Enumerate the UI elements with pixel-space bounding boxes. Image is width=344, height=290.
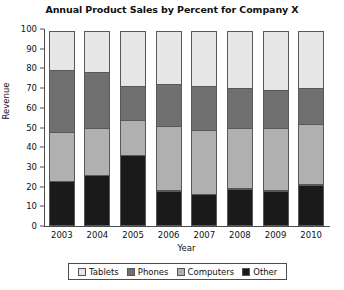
x-axis-tick-label: 2008 <box>227 230 253 240</box>
bar-segment-tablets[interactable] <box>227 31 253 88</box>
bar-segment-computers[interactable] <box>227 128 253 189</box>
bar-segment-other[interactable] <box>191 194 217 226</box>
x-axis-label: Year <box>44 243 329 253</box>
bar-segment-phones[interactable] <box>263 90 289 129</box>
legend-item[interactable]: Computers <box>177 267 235 277</box>
legend-item[interactable]: Tablets <box>78 267 119 277</box>
bar-group[interactable] <box>120 29 146 226</box>
bar-segment-phones[interactable] <box>49 70 75 133</box>
bar-segment-tablets[interactable] <box>84 31 110 72</box>
bar-segment-other[interactable] <box>263 191 289 226</box>
y-axis-tick-label: 70 <box>26 83 37 93</box>
bar-group[interactable] <box>156 29 182 226</box>
y-axis-tick-label: 0 <box>32 221 37 231</box>
bar-segment-phones[interactable] <box>227 88 253 129</box>
bar-series-container <box>44 29 329 226</box>
x-axis-tick-label: 2003 <box>49 230 75 240</box>
chart-legend: TabletsPhonesComputersOther <box>68 263 287 280</box>
bar-segment-computers[interactable] <box>120 120 146 155</box>
bar-segment-phones[interactable] <box>120 86 146 121</box>
bar-segment-tablets[interactable] <box>298 31 324 88</box>
legend-swatch-icon <box>177 268 185 276</box>
bar-group[interactable] <box>298 29 324 226</box>
bar-group[interactable] <box>227 29 253 226</box>
y-axis-tick-label: 60 <box>26 103 37 113</box>
legend-label: Phones <box>138 267 169 277</box>
x-axis-tick-label: 2005 <box>120 230 146 240</box>
bar-group[interactable] <box>191 29 217 226</box>
bar-segment-computers[interactable] <box>156 126 182 191</box>
y-axis-ticks: 0102030405060708090100 <box>0 29 44 226</box>
bar-segment-tablets[interactable] <box>49 31 75 70</box>
legend-swatch-icon <box>242 268 250 276</box>
x-axis-tick-label: 2009 <box>263 230 289 240</box>
bar-group[interactable] <box>263 29 289 226</box>
bar-segment-tablets[interactable] <box>156 31 182 84</box>
bar-segment-phones[interactable] <box>298 88 324 125</box>
y-axis-tick-label: 40 <box>26 142 37 152</box>
bar-segment-computers[interactable] <box>84 128 110 175</box>
bar-segment-other[interactable] <box>49 181 75 226</box>
legend-item[interactable]: Phones <box>127 267 169 277</box>
x-axis-tick-label: 2004 <box>84 230 110 240</box>
bar-segment-tablets[interactable] <box>263 31 289 90</box>
y-axis-tick-label: 80 <box>26 63 37 73</box>
bar-segment-other[interactable] <box>156 191 182 226</box>
bar-segment-computers[interactable] <box>263 128 289 191</box>
chart-container: Annual Product Sales by Percent for Comp… <box>0 0 344 290</box>
legend-label: Other <box>253 267 277 277</box>
bar-segment-phones[interactable] <box>156 84 182 127</box>
bar-segment-tablets[interactable] <box>191 31 217 86</box>
bar-segment-other[interactable] <box>120 155 146 226</box>
y-axis-tick-label: 20 <box>26 182 37 192</box>
bar-segment-other[interactable] <box>298 185 324 226</box>
y-axis-tick-label: 50 <box>26 123 37 133</box>
bar-group[interactable] <box>49 29 75 226</box>
y-axis-tick-label: 90 <box>26 44 37 54</box>
bar-group[interactable] <box>84 29 110 226</box>
legend-swatch-icon <box>127 268 135 276</box>
x-axis-tick-labels: 20032004200520062007200820092010 <box>44 230 329 240</box>
x-axis-tick-label: 2006 <box>156 230 182 240</box>
bar-segment-computers[interactable] <box>49 132 75 181</box>
bar-segment-other[interactable] <box>84 175 110 226</box>
bar-segment-computers[interactable] <box>191 130 217 195</box>
x-axis-tick-label: 2010 <box>298 230 324 240</box>
legend-label: Computers <box>188 267 235 277</box>
bar-segment-computers[interactable] <box>298 124 324 185</box>
y-axis-tick-label: 100 <box>21 24 37 34</box>
y-axis-tick-label: 10 <box>26 201 37 211</box>
y-axis-tick-label: 30 <box>26 162 37 172</box>
chart-title: Annual Product Sales by Percent for Comp… <box>0 4 344 15</box>
bar-segment-tablets[interactable] <box>120 31 146 86</box>
x-axis-tick-label: 2007 <box>191 230 217 240</box>
bar-segment-phones[interactable] <box>191 86 217 131</box>
legend-label: Tablets <box>89 267 119 277</box>
bar-segment-phones[interactable] <box>84 72 110 129</box>
bar-segment-other[interactable] <box>227 189 253 226</box>
legend-item[interactable]: Other <box>242 267 277 277</box>
legend-swatch-icon <box>78 268 86 276</box>
